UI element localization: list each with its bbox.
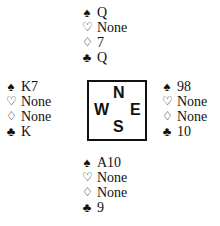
heart-icon: ♡ [160, 94, 174, 109]
south-hearts: None [97, 170, 127, 185]
north-diamonds: 7 [97, 35, 104, 50]
diamond-icon: ♢ [80, 185, 94, 200]
heart-icon: ♡ [4, 94, 18, 109]
north-clubs: Q [97, 50, 107, 65]
diamond-icon: ♢ [160, 109, 174, 124]
compass-north-label: N [113, 85, 125, 101]
east-hearts: None [177, 94, 207, 109]
spade-icon: ♠ [160, 79, 174, 94]
south-diamonds: None [97, 185, 127, 200]
north-hearts: None [97, 20, 127, 35]
club-icon: ♣ [4, 124, 18, 139]
compass-box: N W E S [87, 80, 147, 141]
club-icon: ♣ [80, 50, 94, 65]
compass-south-label: S [113, 119, 124, 135]
compass-west-label: W [94, 102, 109, 118]
diamond-icon: ♢ [80, 35, 94, 50]
south-clubs: 9 [97, 200, 104, 215]
west-diamonds: None [21, 109, 51, 124]
club-icon: ♣ [160, 124, 174, 139]
east-diamonds: None [177, 109, 207, 124]
west-hearts: None [21, 94, 51, 109]
west-spades: K7 [21, 79, 38, 94]
spade-icon: ♠ [4, 79, 18, 94]
club-icon: ♣ [80, 200, 94, 215]
spade-icon: ♠ [80, 155, 94, 170]
compass-east-label: E [130, 102, 141, 118]
heart-icon: ♡ [80, 170, 94, 185]
north-spades: Q [97, 5, 107, 20]
south-spades: A10 [97, 155, 121, 170]
diamond-icon: ♢ [4, 109, 18, 124]
east-clubs: 10 [177, 124, 191, 139]
heart-icon: ♡ [80, 20, 94, 35]
west-clubs: K [21, 124, 31, 139]
east-spades: 98 [177, 79, 191, 94]
spade-icon: ♠ [80, 5, 94, 20]
